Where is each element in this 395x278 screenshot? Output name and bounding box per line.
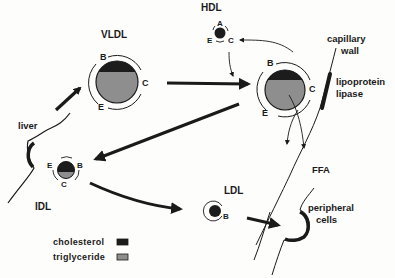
capillary-vldl-apo-c: C [309,85,316,94]
arrow-ldl-to-peripheral [247,218,278,225]
legend-cholesterol-label: cholesterol [53,238,104,247]
ffa-label: FFA [312,165,330,175]
capillary-vldl-apo-e: E [262,109,268,118]
idl-apo-b: B [77,162,83,170]
cells-label: cells [316,215,337,225]
vldl-apo-c: C [142,79,149,88]
legend-swatch-triglyceride [117,254,128,260]
vldl-label: VLDL [101,30,127,40]
vldl-apo-e: E [98,103,104,112]
liver-label: liver [18,121,38,131]
arrow-capillary-to-hdl [240,40,293,52]
lipase-label: lipase [336,89,363,99]
capillary-vldl-apo-b: B [267,59,274,68]
peripheral-label: peripheral [308,203,354,213]
capillary-label: capillary [327,34,366,44]
wall-label: wall [341,46,359,56]
hdl-apo-a: A [217,20,223,28]
hdl-apo-c: C [228,37,234,45]
vldl-particle [89,55,141,109]
legend-triglyceride-label: triglyceride [53,253,105,262]
idl-particle [53,157,79,180]
arrow-liver-to-vldl [56,88,80,110]
lipoprotein-metabolism-diagram: VLDL HDL IDL LDL B C E A E C B C E E B C… [0,0,395,278]
lipoprotein-label: lipoprotein [336,77,385,87]
lipoprotein-lipase-marker [322,74,330,108]
arrow-fatty-acid-release [287,110,298,144]
legend-swatch-cholesterol [117,239,128,245]
arrow-idl-to-ldl [90,183,180,209]
idl-apo-e: E [47,162,52,170]
idl-label: IDL [35,202,51,212]
arrow-capillary-to-idl [96,104,239,159]
ldl-label: LDL [224,186,243,196]
hdl-label: HDL [201,3,222,13]
hdl-particle [213,26,228,42]
vldl-apo-b: B [100,53,107,62]
ldl-apo-b: B [223,213,229,221]
arrow-hdl-to-capillary [229,52,233,76]
ldl-particle [203,201,222,221]
arrow-vldl-to-capillary [167,83,248,84]
idl-apo-c: C [61,181,67,189]
hdl-apo-e: E [207,37,212,45]
